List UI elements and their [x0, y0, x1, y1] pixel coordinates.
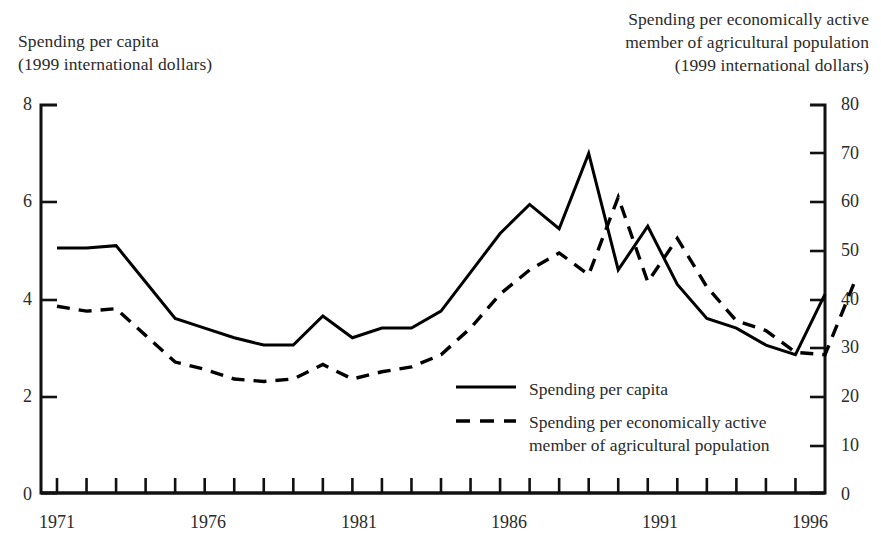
chart-plot-area — [0, 0, 881, 557]
chart-page: Spending per capita (1999 international … — [0, 0, 881, 557]
left-axis-ticks — [41, 202, 57, 397]
x-axis-ticks — [57, 478, 795, 493]
series-line-spending-per-capita — [57, 154, 825, 355]
